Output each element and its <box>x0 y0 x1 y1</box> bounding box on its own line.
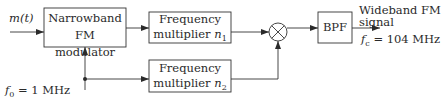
frequency-multiplier-2: Frequency multiplier n2 <box>149 61 231 95</box>
mult2-line2: multiplier n2 <box>149 76 231 95</box>
junction-dot <box>83 77 87 81</box>
input-label: m(t) <box>9 11 34 25</box>
mult2-sub: 2 <box>222 83 227 92</box>
mult1-line2: multiplier n1 <box>149 27 231 46</box>
carrier-value: = 104 MHz <box>373 32 440 46</box>
mult2-to-mixer-arrow <box>231 41 278 79</box>
bpf-label: BPF <box>318 19 352 36</box>
nbfm-line2: FM modulator <box>44 27 126 61</box>
mult2-var: n <box>214 76 221 90</box>
oscillator-label: f0 = 1 MHz <box>5 83 70 102</box>
nbfm-line1: Narrowband <box>44 10 126 27</box>
nbfm-modulator: Narrowband FM modulator <box>44 10 126 61</box>
frequency-multiplier-1: Frequency multiplier n1 <box>149 12 231 46</box>
output-label-line2: signal <box>359 15 394 29</box>
osc-sub: 0 <box>9 90 14 99</box>
output-carrier: fc = 104 MHz <box>361 32 440 51</box>
carrier-sub: c <box>365 39 369 48</box>
mult2-text: multiplier <box>153 76 214 90</box>
osc-value: = 1 MHz <box>18 83 70 97</box>
mult1-line1: Frequency <box>149 12 231 27</box>
mult1-var: n <box>214 27 221 41</box>
mult2-line1: Frequency <box>149 61 231 76</box>
mult1-text: multiplier <box>153 27 214 41</box>
mult1-sub: 1 <box>222 34 227 43</box>
